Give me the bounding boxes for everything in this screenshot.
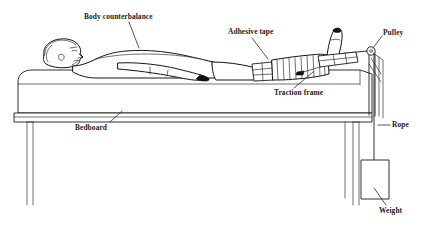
label-pulley: Pulley <box>383 29 403 36</box>
bed-legs <box>27 122 359 205</box>
traction-diagram-figure: Body counterbalance Adhesive tape Tracti… <box>0 0 425 228</box>
hanging-weight <box>361 160 389 199</box>
bedboard-slab <box>14 113 372 122</box>
label-traction-frame: Traction frame <box>274 89 323 96</box>
label-bedboard: Bedboard <box>75 124 107 131</box>
leader-adhesive-tape <box>252 38 268 59</box>
diagram-canvas <box>0 0 425 228</box>
patient-figure <box>43 28 358 81</box>
leader-pulley <box>373 36 382 48</box>
label-rope: Rope <box>392 121 409 128</box>
leader-body-counterbalance <box>129 22 139 48</box>
label-weight: Weight <box>379 207 402 214</box>
label-adhesive-tape: Adhesive tape <box>228 28 273 35</box>
label-body-counterbalance: Body counterbalance <box>84 13 153 20</box>
traction-frame-bracket <box>252 62 274 81</box>
